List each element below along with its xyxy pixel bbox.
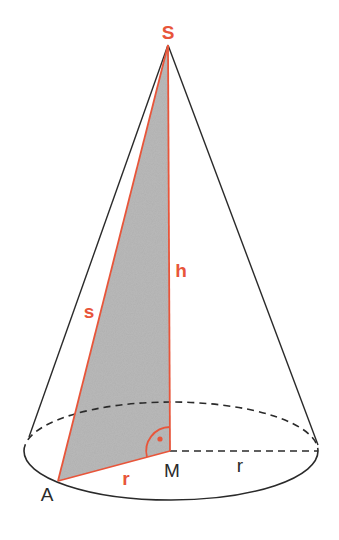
label-apex-s: S bbox=[162, 22, 175, 43]
right-angle-dot bbox=[157, 436, 162, 441]
label-center-m: M bbox=[164, 460, 180, 481]
label-slant-s: s bbox=[84, 301, 95, 322]
label-point-a: A bbox=[41, 484, 54, 505]
cone-diagram: S h s r M r A bbox=[0, 0, 339, 540]
cone-figure: S h s r M r A bbox=[0, 0, 339, 540]
cone-right-edge bbox=[168, 45, 318, 445]
label-height-h: h bbox=[175, 260, 187, 281]
label-radius-r-red: r bbox=[122, 468, 130, 489]
label-radius-r-black: r bbox=[237, 455, 244, 476]
